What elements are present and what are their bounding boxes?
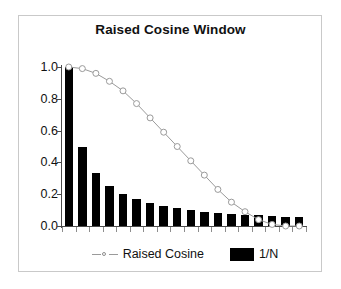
bar bbox=[119, 194, 127, 226]
x-axis-tick-mark bbox=[103, 227, 104, 232]
x-axis-tick-mark bbox=[211, 227, 212, 232]
y-axis-tick-label: 0.2 bbox=[18, 187, 58, 201]
bar-series-1-over-n bbox=[62, 67, 306, 226]
chart-legend: Raised Cosine 1/N bbox=[62, 243, 308, 265]
filled-black-square-icon bbox=[230, 248, 254, 261]
bar bbox=[200, 212, 208, 226]
x-axis-tick-mark bbox=[130, 227, 131, 232]
bar bbox=[146, 203, 154, 226]
chart-figure: Raised Cosine Window 1.00.80.60.40.20.0 … bbox=[0, 0, 341, 289]
y-axis-tick-label: 1.0 bbox=[18, 60, 58, 74]
bar bbox=[173, 208, 181, 226]
legend-entry-one-over-n[interactable]: 1/N bbox=[230, 247, 278, 261]
bar bbox=[159, 206, 167, 226]
bar bbox=[281, 217, 289, 226]
x-axis-tick-mark bbox=[279, 227, 280, 232]
x-axis-tick-mark bbox=[116, 227, 117, 232]
legend-label-one-over-n: 1/N bbox=[259, 247, 278, 261]
y-axis-tick-labels: 1.00.80.60.40.20.0 bbox=[14, 0, 58, 289]
x-axis-tick-mark bbox=[225, 227, 226, 232]
x-axis-tick-mark bbox=[184, 227, 185, 232]
bar bbox=[241, 215, 249, 226]
x-axis-tick-mark bbox=[306, 227, 307, 232]
x-axis-tick-mark bbox=[89, 227, 90, 232]
bar bbox=[92, 173, 100, 226]
bar bbox=[105, 186, 113, 226]
bar bbox=[295, 217, 303, 226]
x-axis-tick-mark bbox=[157, 227, 158, 232]
bar bbox=[268, 216, 276, 226]
x-axis-tick-mark bbox=[62, 227, 63, 232]
bar bbox=[132, 199, 140, 226]
x-axis-tick-mark bbox=[238, 227, 239, 232]
x-axis-tick-mark bbox=[198, 227, 199, 232]
bar bbox=[187, 210, 195, 226]
y-axis-tick-label: 0.6 bbox=[18, 124, 58, 138]
line-circle-marker-icon bbox=[92, 249, 118, 259]
x-axis-tick-mark bbox=[143, 227, 144, 232]
bar bbox=[214, 213, 222, 226]
legend-label-raised-cosine: Raised Cosine bbox=[123, 247, 204, 261]
x-axis-tick-mark bbox=[265, 227, 266, 232]
x-axis-tick-mark bbox=[292, 227, 293, 232]
bar bbox=[254, 215, 262, 226]
y-axis-tick-label: 0.4 bbox=[18, 155, 58, 169]
x-axis-tick-mark bbox=[252, 227, 253, 232]
bar bbox=[65, 67, 73, 226]
legend-entry-raised-cosine[interactable]: Raised Cosine bbox=[92, 247, 204, 261]
y-axis-tick-label: 0.0 bbox=[18, 219, 58, 233]
x-axis-tick-mark bbox=[76, 227, 77, 232]
bar bbox=[227, 214, 235, 226]
x-axis-tick-mark bbox=[170, 227, 171, 232]
y-axis-tick-label: 0.8 bbox=[18, 92, 58, 106]
bar bbox=[78, 147, 86, 227]
